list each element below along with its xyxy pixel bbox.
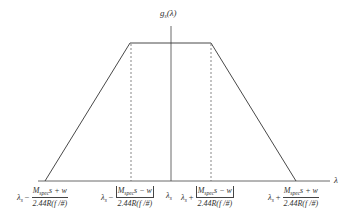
y-axis-label: gs(λ) [160,9,177,20]
denominator: 2.44R(f /#) [32,198,67,208]
denominator: 2.44R(f /#) [283,198,318,208]
operator: + [189,192,194,202]
tick-outer-right: λs + Mspecs + w 2.44R(f /#) [268,186,319,208]
tick-inner-left: λs − Mspecs − w 2.44R(f /#) [101,186,154,208]
operator: − [25,192,30,202]
fraction: Mspecs + w 2.44R(f /#) [283,186,319,208]
lambda-symbol: λs [101,192,107,203]
tick-inner-right: λs + Mspecs − w 2.44R(f /#) [181,186,234,208]
numerator-abs: Mspecs − w [116,186,154,198]
numerator-abs: Mspecs − w [196,186,234,198]
tick-center: λs [166,190,172,201]
x-axis-label: λ [334,176,338,185]
lambda-symbol: λs [268,192,274,203]
fraction: Mspecs − w 2.44R(f /#) [116,186,154,208]
y-label-arg: (λ) [167,8,177,18]
trapezoid-curve [45,43,296,181]
denominator: 2.44R(f /#) [117,198,152,208]
numerator: Mspecs + w [283,186,319,198]
denominator: 2.44R(f /#) [197,198,232,208]
lambda-symbol: λs [17,192,23,203]
operator: − [109,192,114,202]
lambda-symbol: λs [166,190,172,201]
tick-outer-left: λs − Mspecs + w 2.44R(f /#) [17,186,68,208]
operator: + [276,192,281,202]
fraction: Mspecs − w 2.44R(f /#) [196,186,234,208]
lambda-symbol: λs [181,192,187,203]
numerator: Mspecs + w [32,186,68,198]
fraction: Mspecs + w 2.44R(f /#) [32,186,68,208]
